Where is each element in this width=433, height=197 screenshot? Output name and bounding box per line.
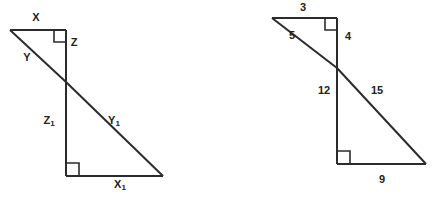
left-large-hypotenuse <box>66 82 163 176</box>
left-small-hypotenuse <box>10 30 66 82</box>
left-figure-group: X Y Z Z1 Y1 X1 <box>10 11 163 192</box>
right-large-right-angle-marker <box>337 151 350 164</box>
label-9: 9 <box>379 173 385 185</box>
label-3: 3 <box>300 1 306 13</box>
label-Z: Z <box>71 36 78 48</box>
left-small-right-angle-marker <box>54 30 66 42</box>
label-Z1: Z1 <box>43 114 55 128</box>
label-Y: Y <box>23 51 31 63</box>
geometry-figure-canvas: X Y Z Z1 Y1 X1 3 5 4 12 <box>0 0 433 197</box>
label-5: 5 <box>289 29 295 41</box>
left-large-right-angle-marker <box>66 163 79 176</box>
right-small-hypotenuse <box>272 18 337 68</box>
label-Z1-subscript: 1 <box>50 119 55 128</box>
label-X: X <box>32 11 40 23</box>
label-Y1-subscript: 1 <box>115 119 120 128</box>
label-X1: X1 <box>114 178 126 192</box>
label-X1-subscript: 1 <box>121 183 126 192</box>
label-4: 4 <box>345 30 352 42</box>
right-figure-group: 3 5 4 12 15 9 <box>272 1 426 185</box>
right-large-hypotenuse <box>337 68 426 164</box>
label-15: 15 <box>371 84 383 96</box>
right-small-right-angle-marker <box>325 18 337 30</box>
label-12: 12 <box>318 84 330 96</box>
geometry-diagram-svg: X Y Z Z1 Y1 X1 3 5 4 12 <box>0 0 433 197</box>
